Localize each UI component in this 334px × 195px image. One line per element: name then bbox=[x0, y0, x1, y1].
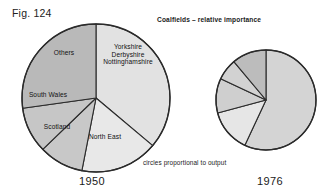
pie-slice bbox=[22, 24, 96, 108]
year-label-1950: 1950 bbox=[62, 175, 122, 187]
pie-chart-1976 bbox=[216, 50, 316, 150]
circles-proportional-note: circles proportional to output bbox=[143, 159, 226, 166]
pie-chart-1950 bbox=[22, 24, 170, 172]
figure-root: Fig. 124 Coalfields – relative importanc… bbox=[0, 0, 334, 195]
year-label-1976: 1976 bbox=[240, 175, 300, 187]
